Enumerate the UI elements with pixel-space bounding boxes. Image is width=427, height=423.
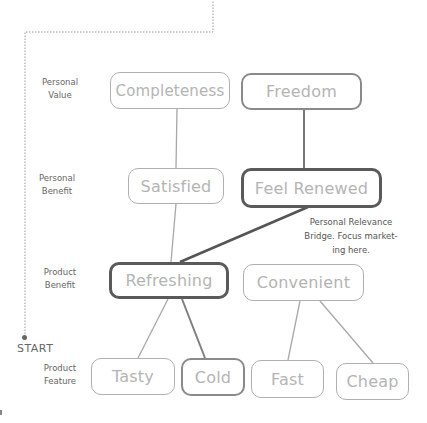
annotation-line: Bridge. Focus market- xyxy=(300,229,402,243)
start-label: START xyxy=(17,342,53,355)
level-label-line: Personal xyxy=(27,172,87,185)
node-feel-renewed: Feel Renewed xyxy=(241,168,382,208)
edge-refreshing-cold xyxy=(182,299,205,358)
node-cheap: Cheap xyxy=(336,363,409,400)
level-label-line: Personal xyxy=(30,76,90,89)
node-freedom: Freedom xyxy=(241,73,362,110)
annotation-line: Personal Relevance xyxy=(300,215,402,229)
edge-convenient-cheap xyxy=(320,301,373,363)
node-tasty: Tasty xyxy=(91,358,175,395)
edge-completeness-satisfied xyxy=(176,108,177,168)
start-dot-icon xyxy=(22,335,27,340)
level-label-line: Product xyxy=(30,266,90,279)
level-label-product-feature: Product Feature xyxy=(30,362,90,388)
level-label-personal-benefit: Personal Benefit xyxy=(27,172,87,198)
corner-mark xyxy=(0,410,2,415)
level-label-line: Feature xyxy=(30,375,90,388)
node-cold: Cold xyxy=(181,358,245,396)
node-satisfied: Satisfied xyxy=(128,168,224,204)
edge-convenient-fast xyxy=(288,301,300,360)
level-label-product-benefit: Product Benefit xyxy=(30,266,90,292)
node-refreshing: Refreshing xyxy=(109,262,229,299)
level-label-line: Benefit xyxy=(27,185,87,198)
edge-satisfied-refreshing xyxy=(171,204,176,262)
node-convenient: Convenient xyxy=(243,264,364,301)
annotation-line: ing here. xyxy=(300,243,402,257)
node-completeness: Completeness xyxy=(110,72,230,109)
node-fast: Fast xyxy=(251,360,324,398)
level-label-line: Product xyxy=(30,362,90,375)
level-label-line: Value xyxy=(30,89,90,102)
means-end-ladder-diagram: START Personal Value Personal Benefit Pr… xyxy=(0,0,427,423)
edge-feelrenewed-refreshing xyxy=(180,207,308,262)
edge-refreshing-tasty xyxy=(138,299,168,358)
level-label-personal-value: Personal Value xyxy=(30,76,90,102)
level-label-line: Benefit xyxy=(30,279,90,292)
personal-relevance-annotation: Personal Relevance Bridge. Focus market-… xyxy=(300,215,402,257)
